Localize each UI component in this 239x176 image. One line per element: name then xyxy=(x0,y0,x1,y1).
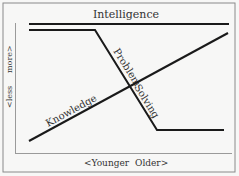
x-axis-left-label: <Younger xyxy=(84,158,130,168)
intelligence-label: Intelligence xyxy=(93,8,159,21)
x-axis-right-label: Older> xyxy=(135,158,168,168)
y-axis-top-label: more> xyxy=(5,45,14,73)
diagram-canvas: Intelligence Problem Solving Knowledge <… xyxy=(0,0,239,176)
outer-frame xyxy=(3,3,235,172)
y-axis-bottom-label: <less xyxy=(5,86,14,108)
